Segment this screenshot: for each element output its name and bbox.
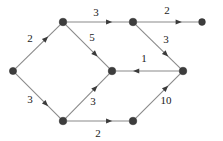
edge-bottom-left-to-bottom-mid-weight-label: 2 <box>95 128 101 139</box>
edge-left-to-top-left <box>16 25 60 69</box>
edge-left-to-bottom-left <box>16 74 60 118</box>
left-node <box>9 67 16 74</box>
edge-left-to-bottom-left-weight-label: 3 <box>27 94 33 105</box>
edge-top-middle-to-right-weight-label: 3 <box>163 34 169 45</box>
edge-bottom-left-to-bottom-mid-arrowhead-icon <box>106 118 112 123</box>
bottom-middle-node <box>129 117 137 125</box>
edge-top-left-to-top-middle-weight-label: 3 <box>93 7 99 18</box>
center-node <box>108 67 116 75</box>
edges-layer <box>16 22 199 121</box>
edge-top-left-to-center <box>66 25 109 68</box>
edge-top-left-to-center-weight-label: 5 <box>89 32 95 43</box>
top-left-node <box>59 18 67 26</box>
edge-bottom-left-to-center-weight-label: 3 <box>90 96 96 107</box>
edge-bottom-middle-to-right <box>136 74 180 118</box>
edge-top-middle-to-top-right-weight-label: 2 <box>164 5 170 16</box>
edge-right-to-center-arrowhead-icon <box>133 68 139 73</box>
edge-top-left-to-top-middle-arrowhead-icon <box>106 19 112 24</box>
edge-top-middle-to-top-right-arrowhead-icon <box>176 19 182 24</box>
directed-weighted-graph-figure: 23353223110 <box>0 0 223 141</box>
right-node <box>179 67 187 75</box>
edge-left-to-top-left-weight-label: 2 <box>27 33 33 44</box>
top-middle-node <box>129 18 137 26</box>
edge-bottom-left-to-center <box>66 74 109 118</box>
edge-bottom-middle-to-right-weight-label: 10 <box>161 95 172 106</box>
bottom-left-node <box>59 117 67 125</box>
top-right-node <box>199 19 206 26</box>
graph-canvas <box>0 0 223 141</box>
edge-right-to-center-weight-label: 1 <box>141 53 147 64</box>
